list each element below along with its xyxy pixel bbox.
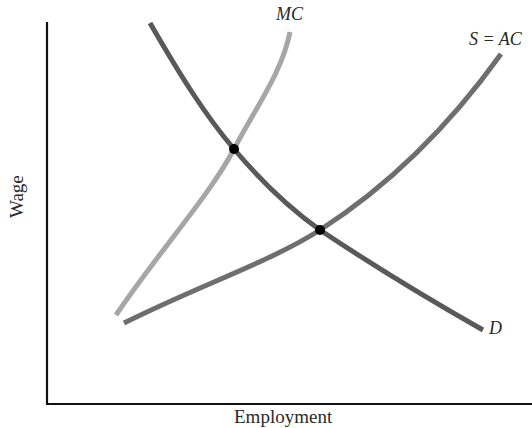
mc-curve-label: MC (276, 4, 303, 25)
y-axis-label: Wage (6, 175, 28, 218)
demand-curve-label: D (489, 318, 502, 339)
supply-ac-curve-label: S = AC (469, 29, 522, 50)
marginal-cost-curve (116, 32, 290, 315)
mc-demand-intersection-point (229, 144, 239, 154)
x-axis-label: Employment (234, 406, 332, 428)
supply-demand-intersection-point (315, 225, 325, 235)
supply-average-cost-curve (124, 54, 501, 323)
demand-curve (150, 23, 483, 330)
